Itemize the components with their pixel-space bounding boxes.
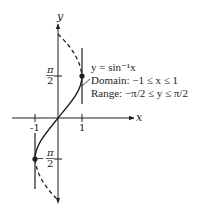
y-tick-label-pi-num: π (46, 64, 54, 75)
function-label: y = sin⁻¹x (91, 61, 136, 73)
range-label: Range: −π/2 ≤ y ≤ π/2 (91, 87, 188, 99)
y-tick-label-negpi-num: π (46, 147, 54, 158)
x-axis-label: x (136, 111, 143, 124)
x-tick-label-1: 1 (79, 122, 85, 133)
dashed-curve-top (58, 34, 82, 76)
y-axis-label: y (56, 10, 64, 23)
x-tick-label-neg1: -1 (30, 122, 40, 133)
y-axis-bottom-arrow-icon (56, 198, 60, 204)
y-tick-label-negpi-den: 2 (47, 158, 53, 169)
endpoint-dot-top (79, 73, 84, 78)
y-tick-label-pi-den: 2 (47, 75, 53, 86)
domain-label: Domain: −1 ≤ x ≤ 1 (91, 74, 178, 86)
arcsin-graph: y x -1 1 π 2 − π 2 (0, 0, 202, 217)
leader-line (82, 79, 90, 86)
y-tick-label-negpi-sign: − (36, 153, 44, 164)
